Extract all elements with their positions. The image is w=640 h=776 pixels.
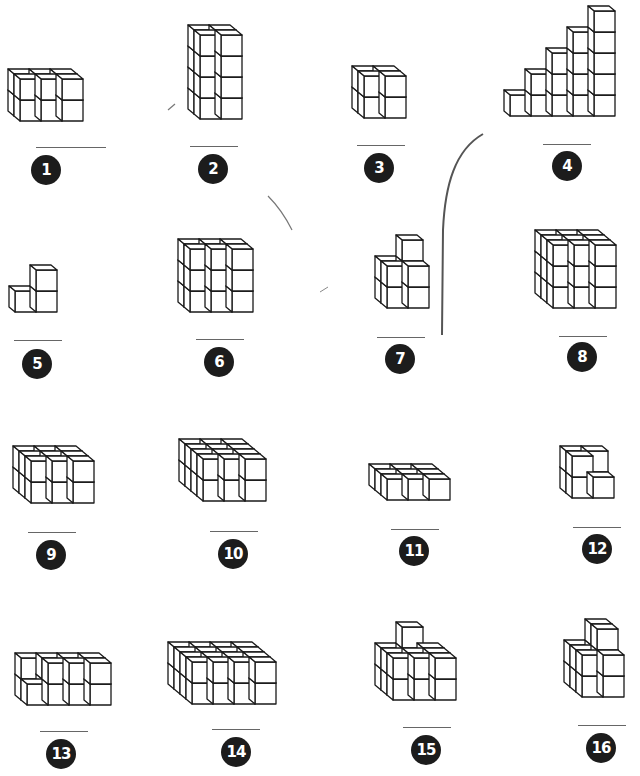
item-number-badge: 16 <box>586 733 616 763</box>
cube-figure-16 <box>0 0 640 776</box>
answer-blank-16[interactable] <box>578 725 626 726</box>
